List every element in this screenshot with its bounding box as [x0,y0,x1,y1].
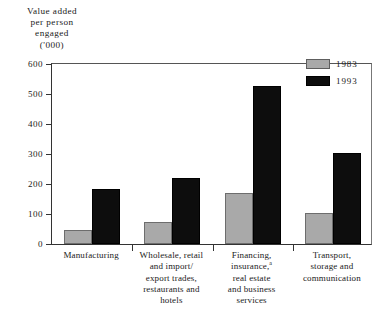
y-axis-tick-500: 500 [28,89,52,99]
plot-frame: 6005004003002001000 [51,63,372,245]
y-axis-title: Value added per person engaged ('000) [0,6,104,51]
y-axis-tick-200: 200 [28,179,52,189]
footnote-marker: a [269,260,272,266]
bar-1983-group-1[interactable] [64,230,92,244]
legend-swatch-1993 [306,76,330,86]
legend-item-1993[interactable]: 1993 [306,76,358,86]
bar-1993-group-2[interactable] [172,178,200,244]
bar-group-3 [225,64,281,244]
bar-1983-group-3[interactable] [225,193,253,244]
y-axis-tick-600: 600 [28,59,52,69]
legend-label-1993: 1993 [336,76,358,86]
y-axis-tick-0: 0 [38,239,52,249]
x-axis-label-4: Transport, storage and communication [284,250,380,284]
bar-1983-group-4[interactable] [305,213,333,244]
y-axis-tick-300: 300 [28,149,52,159]
chart-legend: 1983 1993 [306,59,358,86]
plot-area [52,64,371,244]
bar-1993-group-1[interactable] [92,189,120,244]
legend-label-1983: 1983 [336,59,358,69]
legend-swatch-1983 [306,59,330,69]
bar-1993-group-4[interactable] [333,153,361,244]
y-axis-tick-100: 100 [28,209,52,219]
bar-1993-group-3[interactable] [253,86,281,244]
bar-group-1 [64,64,120,244]
bar-group-2 [144,64,200,244]
bar-group-4 [305,64,361,244]
legend-item-1983[interactable]: 1983 [306,59,358,69]
y-axis-tick-400: 400 [28,119,52,129]
bar-1983-group-2[interactable] [144,222,172,245]
